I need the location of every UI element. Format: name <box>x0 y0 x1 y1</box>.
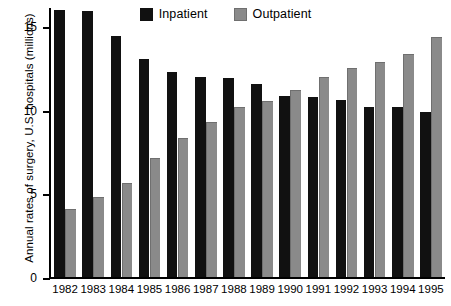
y-axis-tick-0 <box>43 278 50 280</box>
bar-group-1990 <box>276 8 304 277</box>
bar-group-1986 <box>164 8 192 277</box>
x-axis-tick-label-1993: 1993 <box>361 282 389 296</box>
x-axis-tick-label-1986: 1986 <box>164 282 192 296</box>
x-axis-tick-label-1991: 1991 <box>304 282 332 296</box>
bar-group-1987 <box>192 8 220 277</box>
bar-group-1992 <box>332 8 360 277</box>
bar-inpatient-1989 <box>251 84 262 277</box>
x-axis-tick-label-1992: 1992 <box>332 282 360 296</box>
x-axis-tick-label-1982: 1982 <box>51 282 79 296</box>
bar-group-1994 <box>389 8 417 277</box>
x-axis-tick-label-1990: 1990 <box>276 282 304 296</box>
bar-inpatient-1982 <box>54 10 65 277</box>
bar-outpatient-1986 <box>178 138 189 277</box>
y-axis-tick-label-15: 15 <box>13 21 37 33</box>
bar-outpatient-1992 <box>347 68 358 277</box>
x-axis-tick-label-1987: 1987 <box>192 282 220 296</box>
bar-outpatient-1995 <box>431 37 442 277</box>
bar-group-1993 <box>361 8 389 277</box>
bar-outpatient-1985 <box>150 158 161 277</box>
y-axis-tick-5 <box>43 194 50 196</box>
y-axis-tick-label-0: 0 <box>13 272 37 284</box>
bar-outpatient-1983 <box>93 197 104 277</box>
x-axis-tick-label-1985: 1985 <box>135 282 163 296</box>
bar-groups <box>51 8 445 277</box>
x-axis-tick-label-1994: 1994 <box>389 282 417 296</box>
bar-inpatient-1984 <box>111 36 122 277</box>
bar-group-1983 <box>79 8 107 277</box>
x-axis-tick-label-1989: 1989 <box>248 282 276 296</box>
bar-inpatient-1990 <box>279 96 290 277</box>
bar-inpatient-1987 <box>195 77 206 277</box>
plot-area: 051015 <box>49 8 445 279</box>
bar-inpatient-1991 <box>308 97 319 277</box>
bar-group-1991 <box>304 8 332 277</box>
bar-outpatient-1991 <box>319 77 330 277</box>
bar-chart: Inpatient Outpatient Annual rates of sur… <box>0 0 451 306</box>
x-axis-line <box>49 277 445 279</box>
bar-outpatient-1982 <box>65 209 76 277</box>
y-axis-tick-15 <box>43 27 50 29</box>
bar-inpatient-1986 <box>167 72 178 277</box>
bar-group-1995 <box>417 8 445 277</box>
x-axis-tick-label-1984: 1984 <box>107 282 135 296</box>
bar-group-1989 <box>248 8 276 277</box>
bar-inpatient-1985 <box>139 59 150 277</box>
y-axis-tick-label-5: 5 <box>13 188 37 200</box>
bar-group-1984 <box>107 8 135 277</box>
x-axis-tick-label-1988: 1988 <box>220 282 248 296</box>
bar-outpatient-1988 <box>234 107 245 277</box>
bar-inpatient-1992 <box>336 100 347 277</box>
y-axis-tick-10 <box>43 111 50 113</box>
x-axis-tick-label-1983: 1983 <box>79 282 107 296</box>
bar-inpatient-1983 <box>82 11 93 277</box>
bar-inpatient-1993 <box>364 107 375 277</box>
x-axis-tick-labels: 1982198319841985198619871988198919901991… <box>49 282 445 300</box>
bar-inpatient-1988 <box>223 78 234 277</box>
bar-outpatient-1984 <box>122 183 133 277</box>
bar-outpatient-1994 <box>403 54 414 277</box>
x-axis-tick-label-1995: 1995 <box>417 282 445 296</box>
y-axis-tick-label-10: 10 <box>13 105 37 117</box>
y-axis-title: Annual rates of surgery, U.S. hospitals … <box>23 0 35 283</box>
bar-outpatient-1993 <box>375 62 386 277</box>
bar-outpatient-1989 <box>262 101 273 277</box>
bar-outpatient-1987 <box>206 122 217 277</box>
bar-group-1985 <box>135 8 163 277</box>
bar-group-1982 <box>51 8 79 277</box>
bar-inpatient-1994 <box>392 107 403 277</box>
bar-inpatient-1995 <box>420 112 431 277</box>
bar-group-1988 <box>220 8 248 277</box>
bar-outpatient-1990 <box>290 90 301 277</box>
